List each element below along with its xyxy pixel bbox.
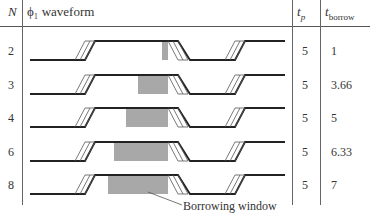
- borrowing-window-shade: [126, 109, 168, 127]
- borrowing-window-shade: [138, 76, 168, 94]
- borrowing-window-shade: [114, 143, 168, 161]
- borrowing-window-shade: [162, 42, 168, 60]
- borrowing-window-label: Borrowing window: [183, 199, 277, 214]
- borrowing-window-shade: [108, 176, 168, 194]
- waveform-diagram: [0, 0, 373, 220]
